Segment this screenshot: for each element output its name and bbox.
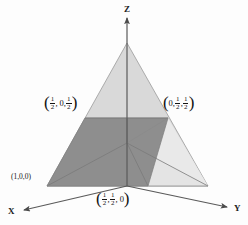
left-close-paren: ): [72, 93, 78, 112]
vertex-label-xy-midpoint: (12,12, 0): [96, 192, 129, 207]
bottom-comma-2: , 0: [116, 194, 124, 204]
left-comma-1: , 0,: [56, 98, 66, 108]
right-open-paren: (: [163, 93, 169, 112]
x-axis-label: X: [8, 206, 15, 216]
bottom-fraction-a: 12: [102, 192, 107, 207]
vertex-label-x-unit: (1,0,0): [11, 172, 31, 181]
y-axis: [127, 186, 227, 207]
left-fraction-a: 12: [50, 96, 55, 111]
right-lead: 0,: [169, 98, 175, 108]
vertex-label-yz-midpoint: (0,12,12): [163, 96, 194, 111]
bottom-close-paren: ): [124, 189, 130, 208]
bottom-open-paren: (: [96, 189, 102, 208]
y-axis-label: Y: [234, 203, 241, 213]
right-close-paren: ): [189, 93, 195, 112]
right-fraction-a: 12: [175, 96, 180, 111]
left-fraction-b: 12: [66, 96, 71, 111]
z-axis-label: Z: [124, 4, 130, 14]
right-fraction-b: 12: [183, 96, 188, 111]
left-open-paren: (: [44, 93, 50, 112]
simplex-figure: Z X Y (1,0,0) (12, 0,12) (0,12,12) (12,1…: [0, 0, 248, 225]
vertex-label-xz-midpoint: (12, 0,12): [44, 96, 77, 111]
bottom-fraction-b: 12: [110, 192, 115, 207]
